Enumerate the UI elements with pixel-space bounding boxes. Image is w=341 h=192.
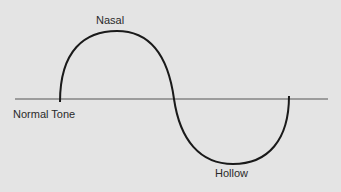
tone-wave-diagram <box>0 0 341 192</box>
label-normal-tone: Normal Tone <box>13 108 75 120</box>
tone-wave-curve <box>60 31 289 164</box>
label-hollow: Hollow <box>215 167 248 179</box>
label-nasal: Nasal <box>96 14 124 26</box>
